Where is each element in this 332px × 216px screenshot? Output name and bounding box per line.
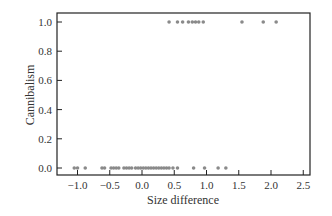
y-tick-label: 0.0 <box>38 162 52 174</box>
data-point <box>167 20 171 24</box>
data-point <box>72 166 76 170</box>
y-tick-label: 0.8 <box>38 45 52 57</box>
data-point <box>201 20 205 24</box>
x-tick-label: −1.0 <box>68 179 88 191</box>
x-tick-label: −0.5 <box>100 179 120 191</box>
data-point <box>76 166 80 170</box>
data-points <box>72 20 277 170</box>
data-point <box>261 20 265 24</box>
data-point <box>197 20 201 24</box>
data-point <box>171 166 175 170</box>
x-tick-label: 0.0 <box>135 179 149 191</box>
data-point <box>191 20 195 24</box>
y-axis-label: Cannibalism <box>23 64 37 125</box>
data-point <box>176 166 180 170</box>
x-tick-label: 1.0 <box>200 179 214 191</box>
scatter-chart: 0.00.20.40.60.81.0 −1.0−0.50.00.51.01.52… <box>0 0 332 216</box>
data-point <box>192 166 196 170</box>
data-point <box>194 20 198 24</box>
y-tick-label: 1.0 <box>38 16 52 28</box>
data-point <box>203 166 207 170</box>
x-tick-label: 0.5 <box>167 179 181 191</box>
data-point <box>83 166 87 170</box>
data-point <box>216 166 220 170</box>
data-point <box>103 166 107 170</box>
data-point <box>224 166 228 170</box>
x-tick-label: 1.5 <box>232 179 246 191</box>
x-tick-label: 2.5 <box>296 179 310 191</box>
x-axis-ticks: −1.0−0.50.00.51.01.52.02.5 <box>68 170 311 191</box>
data-point <box>117 166 121 170</box>
data-point <box>130 166 134 170</box>
y-axis-ticks: 0.00.20.40.60.81.0 <box>38 16 62 174</box>
x-axis-label: Size difference <box>147 193 219 207</box>
data-point <box>187 20 191 24</box>
data-point <box>181 20 185 24</box>
data-point <box>167 166 171 170</box>
data-point <box>176 20 180 24</box>
y-tick-label: 0.4 <box>38 104 52 116</box>
y-tick-label: 0.2 <box>38 133 52 145</box>
plot-frame <box>57 13 310 175</box>
y-tick-label: 0.6 <box>38 74 52 86</box>
data-point <box>240 20 244 24</box>
x-tick-label: 2.0 <box>264 179 278 191</box>
data-point <box>274 20 278 24</box>
